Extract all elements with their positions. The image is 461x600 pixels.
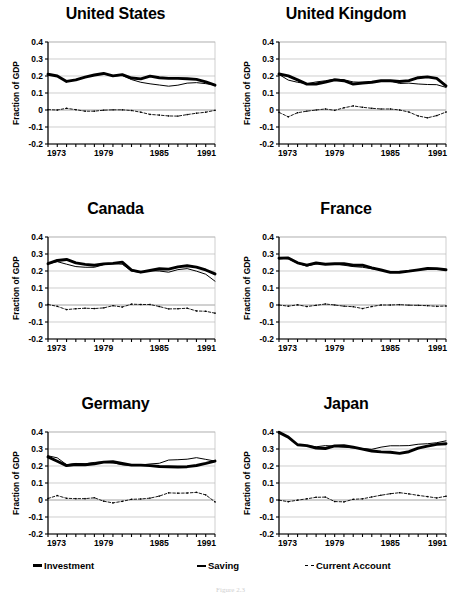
svg-text:0.2: 0.2: [262, 461, 274, 471]
figure-caption: Figure 2.3: [0, 586, 461, 600]
panel-title: Japan: [231, 390, 461, 414]
svg-text:0.3: 0.3: [31, 444, 43, 454]
svg-text:1991: 1991: [427, 343, 446, 353]
svg-text:1979: 1979: [325, 148, 344, 158]
y-axis-label: Fraction of GDP: [11, 61, 21, 125]
chart-legend: Investment Saving Current Account: [0, 552, 461, 582]
svg-text:0.1: 0.1: [31, 478, 43, 488]
svg-text:0.4: 0.4: [31, 232, 43, 242]
chart-svg: 0.40.30.20.10-0.1-0.21973197919851991Fra…: [8, 414, 223, 564]
svg-text:-0.1: -0.1: [29, 317, 44, 327]
legend-label-investment: Investment: [44, 560, 94, 571]
svg-text:1985: 1985: [380, 148, 399, 158]
svg-text:-0.1: -0.1: [259, 317, 274, 327]
chart-svg: 0.40.30.20.10-0.1-0.21973197919851991Fra…: [239, 24, 454, 174]
chart-svg: 0.40.30.20.10-0.1-0.21973197919851991Fra…: [8, 24, 223, 174]
panel-japan: Japan 0.40.30.20.10-0.1-0.21973197919851…: [231, 390, 461, 552]
panel-grid: United States 0.40.30.20.10-0.1-0.219731…: [0, 0, 461, 552]
svg-text:1979: 1979: [94, 538, 113, 548]
figure-saving-investment-panels: United States 0.40.30.20.10-0.1-0.219731…: [0, 0, 461, 600]
svg-text:0.2: 0.2: [31, 71, 43, 81]
svg-text:1973: 1973: [278, 343, 297, 353]
svg-text:0: 0: [38, 495, 43, 505]
svg-text:-0.1: -0.1: [29, 512, 44, 522]
legend-line-icon-investment: [33, 564, 42, 567]
svg-text:0: 0: [269, 300, 274, 310]
svg-text:0.3: 0.3: [262, 249, 274, 259]
svg-text:-0.2: -0.2: [259, 139, 274, 149]
svg-text:-0.2: -0.2: [259, 334, 274, 344]
svg-text:0.1: 0.1: [262, 283, 274, 293]
chart-svg: 0.40.30.20.10-0.1-0.21973197919851991Fra…: [239, 219, 454, 369]
svg-text:0.2: 0.2: [31, 266, 43, 276]
svg-text:1973: 1973: [47, 343, 66, 353]
svg-text:1973: 1973: [278, 148, 297, 158]
svg-text:0.1: 0.1: [31, 283, 43, 293]
svg-text:0: 0: [38, 300, 43, 310]
y-axis-label: Fraction of GDP: [11, 451, 21, 515]
svg-text:0.3: 0.3: [262, 54, 274, 64]
svg-text:-0.1: -0.1: [259, 512, 274, 522]
y-axis-label: Fraction of GDP: [242, 256, 252, 320]
panel-title: France: [231, 195, 461, 219]
svg-text:1979: 1979: [94, 148, 113, 158]
svg-text:0.4: 0.4: [31, 427, 43, 437]
panel-united-states: United States 0.40.30.20.10-0.1-0.219731…: [0, 0, 231, 195]
svg-text:0.4: 0.4: [262, 232, 274, 242]
legend-line-icon-saving: [197, 565, 206, 567]
plot-area-germany: 0.40.30.20.10-0.1-0.21973197919851991Fra…: [8, 414, 223, 564]
y-axis-label: Fraction of GDP: [242, 451, 252, 515]
panel-title: United States: [0, 0, 231, 24]
svg-text:0: 0: [269, 105, 274, 115]
svg-text:-0.1: -0.1: [259, 122, 274, 132]
svg-text:1979: 1979: [94, 343, 113, 353]
svg-text:1991: 1991: [197, 148, 216, 158]
svg-text:0.3: 0.3: [262, 444, 274, 454]
svg-text:0.4: 0.4: [262, 37, 274, 47]
svg-text:0.2: 0.2: [262, 266, 274, 276]
chart-svg: 0.40.30.20.10-0.1-0.21973197919851991Fra…: [8, 219, 223, 369]
svg-text:1985: 1985: [150, 343, 169, 353]
svg-text:1979: 1979: [325, 343, 344, 353]
legend-label-saving: Saving: [208, 560, 239, 571]
svg-text:0.3: 0.3: [31, 249, 43, 259]
legend-item-investment: Investment: [33, 560, 94, 571]
svg-text:0.1: 0.1: [262, 478, 274, 488]
svg-text:1985: 1985: [380, 538, 399, 548]
svg-text:0.2: 0.2: [262, 71, 274, 81]
svg-text:0: 0: [269, 495, 274, 505]
svg-text:-0.2: -0.2: [29, 529, 44, 539]
panel-title: Canada: [0, 195, 231, 219]
y-axis-label: Fraction of GDP: [11, 256, 21, 320]
legend-item-saving: Saving: [197, 560, 239, 571]
svg-text:1991: 1991: [427, 148, 446, 158]
svg-text:-0.2: -0.2: [29, 139, 44, 149]
plot-area-united-states: 0.40.30.20.10-0.1-0.21973197919851991Fra…: [8, 24, 223, 174]
svg-text:0.3: 0.3: [31, 54, 43, 64]
svg-text:-0.2: -0.2: [29, 334, 44, 344]
svg-text:1991: 1991: [197, 343, 216, 353]
y-axis-label: Fraction of GDP: [242, 61, 252, 125]
svg-text:0.2: 0.2: [31, 461, 43, 471]
svg-text:1973: 1973: [278, 538, 297, 548]
svg-text:1991: 1991: [197, 538, 216, 548]
svg-text:1973: 1973: [47, 538, 66, 548]
svg-text:-0.1: -0.1: [29, 122, 44, 132]
svg-text:1985: 1985: [150, 148, 169, 158]
svg-text:0.4: 0.4: [262, 427, 274, 437]
legend-item-current-account: Current Account: [305, 560, 391, 571]
svg-text:1985: 1985: [150, 538, 169, 548]
panel-germany: Germany 0.40.30.20.10-0.1-0.219731979198…: [0, 390, 231, 552]
svg-text:0.1: 0.1: [31, 88, 43, 98]
chart-svg: 0.40.30.20.10-0.1-0.21973197919851991Fra…: [239, 414, 454, 564]
panel-united-kingdom: United Kingdom 0.40.30.20.10-0.1-0.21973…: [231, 0, 461, 195]
panel-title: Germany: [0, 390, 231, 414]
plot-area-france: 0.40.30.20.10-0.1-0.21973197919851991Fra…: [239, 219, 454, 369]
legend-label-current-account: Current Account: [316, 560, 391, 571]
svg-text:1985: 1985: [380, 343, 399, 353]
svg-text:1991: 1991: [427, 538, 446, 548]
svg-text:0.1: 0.1: [262, 88, 274, 98]
legend-dashed-line-icon-current-account: [305, 565, 314, 566]
plot-area-canada: 0.40.30.20.10-0.1-0.21973197919851991Fra…: [8, 219, 223, 369]
panel-title: United Kingdom: [231, 0, 461, 24]
